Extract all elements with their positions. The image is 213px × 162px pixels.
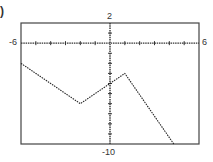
function-curve <box>21 63 174 144</box>
y-max-label: 2 <box>107 12 112 21</box>
x-max-label: 6 <box>202 38 207 47</box>
x-min-label: -6 <box>9 38 17 47</box>
graph-plot <box>0 0 213 162</box>
y-min-label: -10 <box>102 148 115 157</box>
